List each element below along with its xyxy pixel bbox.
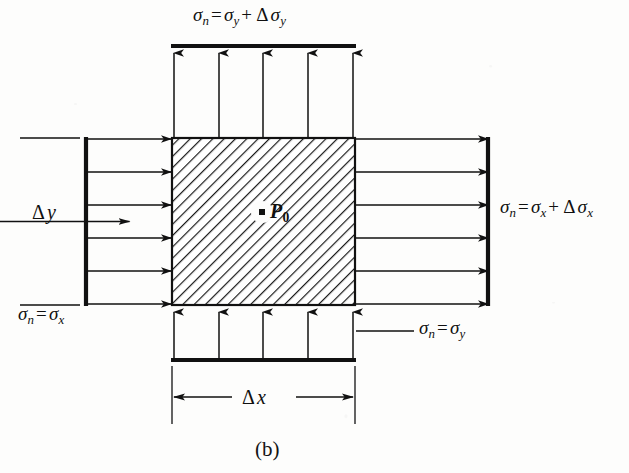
bottom-arrows: [174, 312, 353, 360]
label-right-plus: +: [546, 196, 561, 217]
top-arrows: [174, 53, 353, 138]
label-right-sigma3: σ: [578, 196, 588, 217]
label-delta-y: Δy: [30, 201, 56, 224]
label-top-plus: +: [239, 4, 254, 25]
label-dy-delta: Δ: [30, 201, 47, 223]
label-sigma-n-equals-sigma-x: σn=σx: [18, 303, 64, 328]
label-bottom-sigma2: σ: [450, 317, 460, 338]
label-top-equals: =: [209, 4, 224, 25]
label-p0-letter: P: [270, 200, 282, 222]
right-arrows: [356, 139, 488, 304]
label-top-delta: Δ: [254, 4, 270, 25]
label-top-sub3: y: [280, 13, 286, 28]
label-right-delta: Δ: [561, 196, 577, 217]
label-dx-var: x: [257, 386, 266, 408]
label-top-sigma2: σ: [224, 4, 234, 25]
label-bottom-equals: =: [435, 317, 450, 338]
label-point-p0: P0: [270, 200, 289, 226]
bottom-stress-group: [171, 312, 356, 360]
label-sigma-n-equals-sigma-y: σn=σy: [419, 317, 465, 342]
label-delta-x: Δx: [240, 386, 266, 409]
label-right-sigma2: σ: [531, 196, 541, 217]
stress-element-figure: σn=σy+Δσy σn=σx+Δσx σn=σx σn=σy Δy Δx P0…: [0, 0, 629, 473]
label-bottom-sigma: σ: [419, 317, 429, 338]
label-dx-delta: Δ: [240, 386, 257, 408]
label-sigma-n-x-plus-delta: σn=σx+Δσx: [500, 196, 593, 221]
label-left-sub2: x: [59, 312, 65, 327]
label-top-sigma: σ: [193, 4, 203, 25]
top-stress-group: [171, 46, 356, 138]
label-left-sigma2: σ: [49, 303, 59, 324]
stress-diagram-canvas: [0, 0, 629, 473]
label-left-equals: =: [34, 303, 49, 324]
label-right-equals: =: [516, 196, 531, 217]
label-sigma-n-y-plus-delta: σn=σy+Δσy: [193, 4, 286, 29]
label-top-sigma3: σ: [271, 4, 281, 25]
label-right-sigma: σ: [500, 196, 510, 217]
right-stress-group: [356, 137, 488, 306]
dimension-delta-y: [0, 138, 130, 305]
label-dy-var: y: [47, 201, 56, 223]
center-point-dot: [259, 209, 265, 215]
label-bottom-sub2: y: [460, 326, 466, 341]
label-p0-subscript: 0: [282, 210, 289, 225]
figure-caption: (b): [255, 437, 280, 462]
label-left-sigma: σ: [18, 303, 28, 324]
label-right-sub3: x: [587, 205, 593, 220]
